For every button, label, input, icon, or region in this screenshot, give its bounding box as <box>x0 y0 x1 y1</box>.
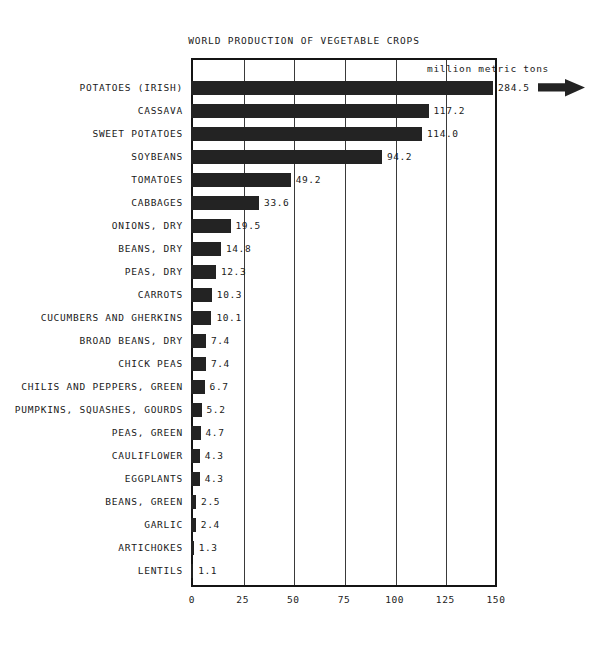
bar-value-label: 284.5 <box>498 82 530 93</box>
bar <box>191 81 493 95</box>
category-label: PEAS, GREEN <box>0 427 183 438</box>
bar-row: 10.1 <box>191 311 497 325</box>
category-label: SOYBEANS <box>0 151 183 162</box>
bar <box>191 449 200 463</box>
x-tick-label: 50 <box>287 594 300 605</box>
bar-row: 12.3 <box>191 265 497 279</box>
bar-value-label: 5.2 <box>207 404 226 415</box>
bar <box>191 311 211 325</box>
category-label: ONIONS, DRY <box>0 220 183 231</box>
x-tick-label: 75 <box>338 594 351 605</box>
bar <box>191 357 206 371</box>
bar-value-label: 14.8 <box>226 243 251 254</box>
bar <box>191 403 202 417</box>
bars-layer: 284.5117.2114.094.249.233.619.514.812.31… <box>191 58 497 587</box>
bar <box>191 219 231 233</box>
units-annotation: million metric tons <box>427 63 549 74</box>
bar-row: 4.3 <box>191 472 497 486</box>
bar <box>191 518 196 532</box>
bar <box>191 426 201 440</box>
category-label: POTATOES (IRISH) <box>0 82 183 93</box>
bar <box>191 127 422 141</box>
bar-row: 94.2 <box>191 150 497 164</box>
bar-row: 1.1 <box>191 564 497 578</box>
x-tick-label: 150 <box>487 594 506 605</box>
bar <box>191 173 291 187</box>
bar-row: 7.4 <box>191 357 497 371</box>
bar-row: 117.2 <box>191 104 497 118</box>
bar <box>191 265 216 279</box>
bar-chart: WORLD PRODUCTION OF VEGETABLE CROPS POTA… <box>0 0 608 649</box>
bar-value-label: 7.4 <box>211 358 230 369</box>
category-label: CHICK PEAS <box>0 358 183 369</box>
bar-value-label: 4.3 <box>205 450 224 461</box>
category-label: BROAD BEANS, DRY <box>0 335 183 346</box>
x-tick-label: 25 <box>236 594 249 605</box>
bar-value-label: 49.2 <box>296 174 321 185</box>
bar-row: 49.2 <box>191 173 497 187</box>
bar-value-label: 10.3 <box>217 289 242 300</box>
bar-row: 284.5 <box>191 81 497 95</box>
category-label: CUCUMBERS AND GHERKINS <box>0 312 183 323</box>
bar <box>191 564 193 578</box>
bar-value-label: 4.7 <box>206 427 225 438</box>
bar-value-label: 6.7 <box>210 381 229 392</box>
bar-row: 5.2 <box>191 403 497 417</box>
bar-value-label: 117.2 <box>434 105 466 116</box>
bar <box>191 288 212 302</box>
x-axis-tick-labels: 0255075100125150 <box>191 594 497 612</box>
bar-value-label: 4.3 <box>205 473 224 484</box>
bar-row: 19.5 <box>191 219 497 233</box>
category-label: CHILIS AND PEPPERS, GREEN <box>0 381 183 392</box>
category-label: CABBAGES <box>0 197 183 208</box>
bar <box>191 380 205 394</box>
bar-value-label: 94.2 <box>387 151 412 162</box>
chart-title: WORLD PRODUCTION OF VEGETABLE CROPS <box>0 35 608 46</box>
bar-row: 2.5 <box>191 495 497 509</box>
bar-value-label: 10.1 <box>216 312 241 323</box>
category-label: TOMATOES <box>0 174 183 185</box>
category-label: PUMPKINS, SQUASHES, GOURDS <box>0 404 183 415</box>
category-label: CAULIFLOWER <box>0 450 183 461</box>
bar-value-label: 7.4 <box>211 335 230 346</box>
category-label: GARLIC <box>0 519 183 530</box>
bar <box>191 150 382 164</box>
category-label: CARROTS <box>0 289 183 300</box>
bar-value-label: 12.3 <box>221 266 246 277</box>
category-label: EGGPLANTS <box>0 473 183 484</box>
bar <box>191 541 194 555</box>
arrow-right-icon <box>538 79 586 97</box>
bar-row: 33.6 <box>191 196 497 210</box>
category-label: PEAS, DRY <box>0 266 183 277</box>
bar <box>191 495 196 509</box>
bar <box>191 196 259 210</box>
category-label: CASSAVA <box>0 105 183 116</box>
category-axis-labels: POTATOES (IRISH)CASSAVASWEET POTATOESSOY… <box>0 58 183 587</box>
x-tick-label: 100 <box>385 594 404 605</box>
bar-row: 2.4 <box>191 518 497 532</box>
bar-value-label: 33.6 <box>264 197 289 208</box>
bar <box>191 334 206 348</box>
bar <box>191 472 200 486</box>
bar-value-label: 19.5 <box>236 220 261 231</box>
bar-value-label: 1.1 <box>198 565 217 576</box>
bar-value-label: 2.4 <box>201 519 220 530</box>
x-tick-label: 125 <box>436 594 455 605</box>
bar-row: 10.3 <box>191 288 497 302</box>
x-tick-label: 0 <box>189 594 195 605</box>
category-label: BEANS, GREEN <box>0 496 183 507</box>
bar-row: 4.7 <box>191 426 497 440</box>
bar-row: 14.8 <box>191 242 497 256</box>
category-label: ARTICHOKES <box>0 542 183 553</box>
bar <box>191 242 221 256</box>
bar-row: 7.4 <box>191 334 497 348</box>
bar-row: 4.3 <box>191 449 497 463</box>
bar-value-label: 1.3 <box>199 542 218 553</box>
bar-row: 114.0 <box>191 127 497 141</box>
category-label: LENTILS <box>0 565 183 576</box>
bar-value-label: 114.0 <box>427 128 459 139</box>
category-label: BEANS, DRY <box>0 243 183 254</box>
bar-row: 6.7 <box>191 380 497 394</box>
bar-row: 1.3 <box>191 541 497 555</box>
bar-value-label: 2.5 <box>201 496 220 507</box>
